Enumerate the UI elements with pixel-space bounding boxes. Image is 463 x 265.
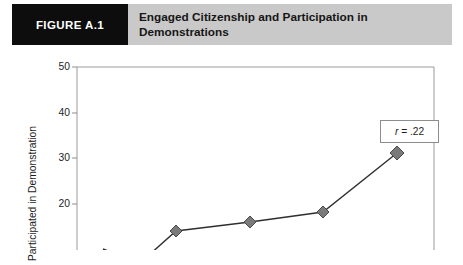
data-line	[103, 153, 397, 250]
correlation-text: r = .22	[395, 126, 424, 137]
figure-title-box: Engaged Citizenship and Participation in…	[128, 4, 452, 45]
figure-title: Engaged Citizenship and Participation in…	[139, 10, 444, 40]
data-point-marker	[244, 216, 256, 228]
data-markers	[170, 146, 404, 237]
figure-header: FIGURE A.1 Engaged Citizenship and Parti…	[12, 4, 452, 45]
data-point-marker	[390, 146, 404, 160]
figure-number-label: FIGURE A.1	[36, 19, 104, 31]
correlation-annotation: r = .22	[380, 120, 439, 143]
chart-area: Participated in Demonstration 50 40 30 2…	[0, 45, 463, 250]
figure-number-box: FIGURE A.1	[12, 4, 128, 45]
plot-svg	[0, 45, 463, 250]
